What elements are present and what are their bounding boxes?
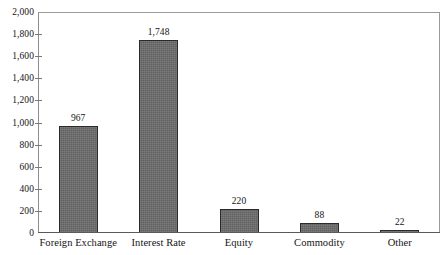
bar-value-label: 220 bbox=[199, 196, 279, 206]
y-axis-tick-label: 200 bbox=[0, 206, 34, 216]
bar bbox=[139, 40, 178, 233]
y-axis-tick-label: 1,600 bbox=[0, 51, 34, 61]
bar-value-label: 967 bbox=[38, 113, 118, 123]
y-axis-tick-label: 400 bbox=[0, 184, 34, 194]
y-axis-tick-mark bbox=[35, 34, 42, 35]
y-axis-tick-label: 800 bbox=[0, 140, 34, 150]
y-axis-tick-label: 2,000 bbox=[0, 7, 34, 17]
y-axis-tick-label: 600 bbox=[0, 162, 34, 172]
x-axis-baseline bbox=[38, 232, 440, 233]
y-axis-tick-labels: 02004006008001,0001,2001,4001,6001,8002,… bbox=[0, 0, 34, 255]
y-axis-tick-mark bbox=[35, 145, 42, 146]
y-axis-tick-mark bbox=[35, 78, 42, 79]
y-axis-tick-label: 1,200 bbox=[0, 95, 34, 105]
bar-value-label: 88 bbox=[279, 210, 359, 220]
y-axis-tick-mark bbox=[35, 56, 42, 57]
y-axis-tick-mark bbox=[35, 189, 42, 190]
y-axis-tick-label: 1,800 bbox=[0, 29, 34, 39]
bar-value-label: 1,748 bbox=[119, 27, 199, 37]
bar bbox=[220, 209, 259, 233]
y-axis-tick-mark bbox=[35, 100, 42, 101]
y-axis-tick-label: 1,000 bbox=[0, 118, 34, 128]
y-axis-tick-mark bbox=[35, 167, 42, 168]
y-axis-tick-label: 1,400 bbox=[0, 73, 34, 83]
bar-value-label: 22 bbox=[360, 217, 440, 227]
x-axis-category-label: Other bbox=[340, 236, 447, 249]
plot-area: 9671,7482208822 bbox=[38, 12, 440, 233]
bar bbox=[59, 126, 98, 233]
y-axis-tick-mark bbox=[35, 211, 42, 212]
y-axis-tick-mark bbox=[35, 123, 42, 124]
bar-chart: 02004006008001,0001,2001,4001,6001,8002,… bbox=[0, 0, 447, 255]
